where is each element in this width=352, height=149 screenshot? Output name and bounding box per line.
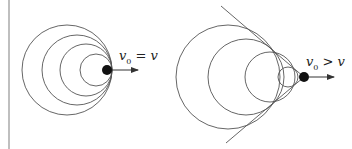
right-velocity-label: v0 > v (306, 54, 345, 72)
doppler-diagram (0, 0, 352, 149)
left-wavefronts (22, 25, 112, 115)
right-wavefronts (176, 25, 298, 129)
mach-cone-lines (221, 6, 304, 143)
left-source-dot (102, 65, 112, 75)
right-label-rest: > v (318, 54, 345, 69)
left-label-rest: = v (131, 48, 158, 63)
left-velocity-label: v0 = v (119, 48, 158, 66)
right-source-dot (299, 72, 309, 82)
wavefront-circle (176, 25, 280, 129)
wavefront-circle (22, 25, 112, 115)
cone-line (226, 77, 304, 143)
wavefront-circle (245, 52, 295, 102)
